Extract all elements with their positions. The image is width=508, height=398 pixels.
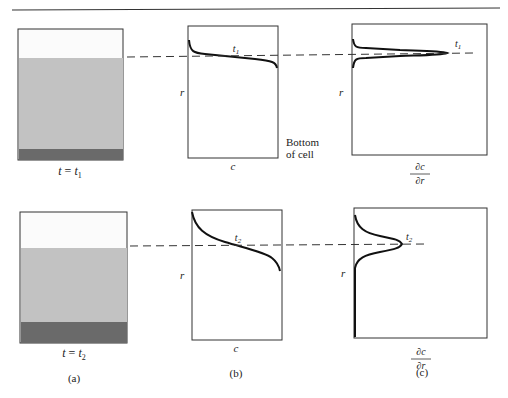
caption-t1: t = t1 bbox=[58, 164, 81, 180]
curve-dcdr-t2 bbox=[355, 215, 402, 337]
ylabel-r-c-top: r bbox=[339, 86, 344, 98]
annotation-of-cell: of cell bbox=[286, 148, 314, 160]
boundary-dashed-line-t2 bbox=[130, 244, 427, 246]
ylabel-r-b-top: r bbox=[180, 86, 185, 98]
cell-t1 bbox=[18, 29, 123, 160]
plot-dcdr-t2 bbox=[354, 208, 487, 338]
annotation-bottom: Bottom bbox=[286, 136, 319, 148]
ylabel-r-b-bottom: r bbox=[180, 269, 185, 281]
top-rule bbox=[12, 8, 500, 10]
curve-label-t1-b: t1 bbox=[233, 43, 239, 56]
cell-t2 bbox=[20, 212, 127, 343]
xlabel-dr-top: ∂r bbox=[416, 175, 425, 186]
panel-label-c: (c) bbox=[416, 366, 429, 379]
panel-label-a: (a) bbox=[68, 372, 81, 385]
xlabel-dc-bottom: ∂c bbox=[416, 346, 426, 357]
sedimentation-figure: t = t1 t1 r c Bottom of cell t1 r ∂c ∂r … bbox=[0, 0, 508, 398]
xlabel-c-bottom: c bbox=[234, 342, 239, 354]
plot-dcdr-t1 bbox=[352, 24, 487, 155]
xlabel-dc-top: ∂c bbox=[415, 161, 425, 172]
plot-c-vs-r-t2 bbox=[192, 210, 282, 340]
curve-label-t2-c: t2 bbox=[406, 231, 413, 244]
curve-label-t2-b: t2 bbox=[235, 232, 242, 245]
panel-label-b: (b) bbox=[230, 367, 243, 380]
xlabel-c-top: c bbox=[231, 160, 236, 172]
ylabel-r-c-bottom: r bbox=[341, 267, 346, 279]
caption-t2: t = t2 bbox=[62, 346, 85, 362]
curve-label-t1-c: t1 bbox=[455, 38, 461, 51]
